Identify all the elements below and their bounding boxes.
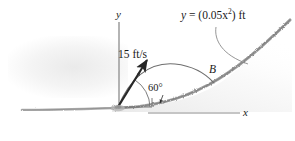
hill-fill [112,22,292,112]
point-b-label: B [209,64,216,76]
figure-graphics [0,0,295,141]
equation-units: ) ft [232,9,246,21]
launch-angle-label: 60° [148,83,163,94]
ground-terrain [22,108,112,110]
y-axis-label: y [116,9,121,20]
curve-equation-label: y = (0.05x2) ft [181,10,246,22]
equation-equals-sign: = [189,9,196,21]
equation-body: (0.05x [198,9,228,21]
equation-leader-line [216,27,248,64]
equation-y-symbol: y [181,9,186,21]
x-axis-label: x [243,107,248,118]
projectile-on-parabolic-hill-figure: y = (0.05x2) ft 15 ft/s 60° B y x [0,0,295,141]
launch-point-marker [111,105,125,111]
initial-speed-label: 15 ft/s [118,49,147,61]
angle-pointer-arrow [118,72,140,106]
